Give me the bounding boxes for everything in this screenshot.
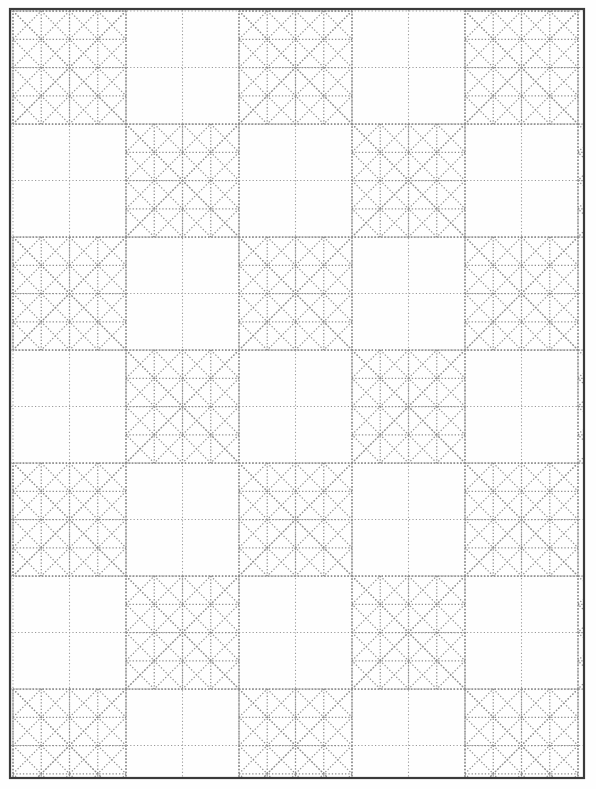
quilt-pattern-canvas [0, 0, 596, 789]
pattern-page [0, 0, 596, 789]
page-background [0, 0, 596, 789]
